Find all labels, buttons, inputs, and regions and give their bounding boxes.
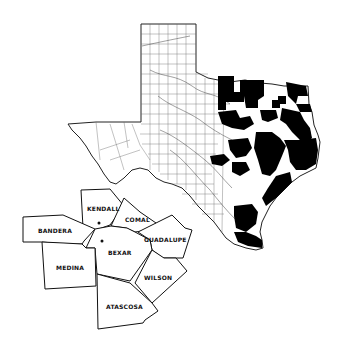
- city-marker-bexar: [101, 240, 104, 243]
- label-atascosa: ATASCOSA: [106, 303, 143, 310]
- city-marker-kendall: [98, 222, 101, 225]
- label-wilson: WILSON: [144, 274, 172, 281]
- bexar-region-inset: KENDALL COMAL BANDERA GUADALUPE BEXAR ME…: [23, 189, 192, 329]
- label-bandera: BANDERA: [38, 227, 72, 234]
- label-kendall: KENDALL: [87, 205, 119, 212]
- label-bexar: BEXAR: [108, 249, 132, 256]
- texas-county-map-figure: KENDALL COMAL BANDERA GUADALUPE BEXAR ME…: [0, 0, 343, 356]
- label-medina: MEDINA: [56, 264, 84, 271]
- label-guadalupe: GUADALUPE: [144, 236, 187, 243]
- map-svg: KENDALL COMAL BANDERA GUADALUPE BEXAR ME…: [0, 0, 343, 356]
- label-comal: COMAL: [125, 216, 150, 223]
